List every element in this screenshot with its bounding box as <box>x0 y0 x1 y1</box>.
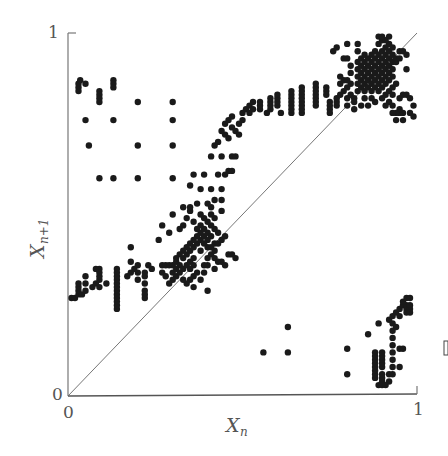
data-point <box>389 371 395 377</box>
data-point <box>211 197 217 203</box>
data-point <box>218 186 224 192</box>
data-point <box>208 186 214 192</box>
data-point <box>149 266 155 272</box>
data-point <box>170 211 176 217</box>
data-point <box>215 139 221 145</box>
data-point <box>389 349 395 355</box>
data-point <box>218 128 224 134</box>
data-point <box>389 66 395 72</box>
data-point <box>389 73 395 79</box>
data-point <box>197 186 203 192</box>
plot-area <box>68 33 417 396</box>
data-point <box>250 99 256 105</box>
data-point <box>77 77 83 83</box>
data-point <box>389 357 395 363</box>
data-point <box>93 266 99 272</box>
data-point <box>110 84 116 90</box>
diagonal-reference-line <box>68 33 417 396</box>
data-point <box>190 284 196 290</box>
data-point <box>208 244 214 250</box>
data-point <box>386 33 392 39</box>
data-point <box>344 346 350 352</box>
data-point <box>375 320 381 326</box>
data-point <box>135 269 141 275</box>
data-point <box>114 266 120 272</box>
data-point <box>236 131 242 137</box>
data-points <box>68 33 416 388</box>
data-point <box>250 106 256 112</box>
data-point <box>204 255 210 261</box>
data-point <box>180 277 186 283</box>
data-point <box>170 99 176 105</box>
data-point <box>156 237 162 243</box>
data-point <box>190 171 196 177</box>
data-point <box>403 52 409 58</box>
data-point <box>232 255 238 261</box>
data-point <box>229 113 235 119</box>
data-point <box>170 175 176 181</box>
x-axis-label-main: X <box>224 414 241 436</box>
data-point <box>201 171 207 177</box>
data-point <box>159 222 165 228</box>
data-point <box>197 277 203 283</box>
data-point <box>187 204 193 210</box>
data-point <box>372 349 378 355</box>
data-point <box>355 48 361 54</box>
data-point <box>278 110 284 116</box>
x-tick-1: 1 <box>413 399 424 419</box>
data-point <box>389 364 395 370</box>
data-point <box>225 135 231 141</box>
x-axis <box>68 394 417 396</box>
data-point <box>410 102 416 108</box>
data-point <box>327 110 333 116</box>
data-point <box>194 226 200 232</box>
data-point <box>396 364 402 370</box>
data-point <box>190 219 196 225</box>
data-point <box>351 106 357 112</box>
data-point <box>170 117 176 123</box>
data-point <box>257 99 263 105</box>
x-axis-label: X n <box>224 414 248 439</box>
data-point <box>110 175 116 181</box>
data-point <box>82 81 88 87</box>
y-axis-label: X n+1 <box>26 219 51 260</box>
data-point <box>389 44 395 50</box>
data-point <box>177 226 183 232</box>
data-point <box>393 324 399 330</box>
data-point <box>407 302 413 308</box>
data-point <box>344 371 350 377</box>
data-point <box>407 95 413 101</box>
data-point <box>82 273 88 279</box>
x-axis-label-sub: n <box>240 425 248 439</box>
data-point <box>211 266 217 272</box>
data-point <box>389 342 395 348</box>
data-point <box>274 92 280 98</box>
data-point <box>379 349 385 355</box>
data-point <box>166 230 172 236</box>
data-point <box>110 117 116 123</box>
data-point <box>344 95 350 101</box>
y-axis-label-sub: n+1 <box>37 219 51 244</box>
x-tick-0: 0 <box>63 402 74 422</box>
data-point <box>355 41 361 47</box>
data-point <box>208 211 214 217</box>
data-point <box>208 153 214 159</box>
data-point <box>267 95 273 101</box>
data-point <box>344 55 350 61</box>
data-point <box>173 266 179 272</box>
data-point <box>396 313 402 319</box>
data-point <box>142 280 148 286</box>
data-point <box>173 255 179 261</box>
data-point <box>82 288 88 294</box>
data-point <box>382 102 388 108</box>
data-point <box>351 99 357 105</box>
data-point <box>313 81 319 87</box>
data-point <box>239 117 245 123</box>
data-point <box>344 102 350 108</box>
data-point <box>396 55 402 61</box>
data-point <box>96 175 102 181</box>
data-point <box>389 110 395 116</box>
data-point <box>386 378 392 384</box>
data-point <box>389 92 395 98</box>
data-point <box>197 248 203 254</box>
